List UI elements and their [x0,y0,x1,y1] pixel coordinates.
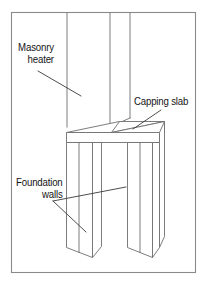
callout-masonry-heater: Masonry heater [18,42,54,65]
foundation-wall-right [128,143,160,258]
callout-capping-slab-line1: Capping slab [134,96,188,108]
figure-root: Masonry heater Capping slab Foundation w… [0,0,207,285]
callout-foundation-walls: Foundation walls [16,177,63,200]
callout-foundation-walls-line2: walls [16,189,63,201]
callout-capping-slab: Capping slab [134,96,188,108]
foundation-wall-left [67,143,102,258]
callout-foundation-walls-line1: Foundation [16,177,63,189]
callout-masonry-heater-line2: heater [18,54,54,66]
callout-masonry-heater-line1: Masonry [18,42,54,54]
